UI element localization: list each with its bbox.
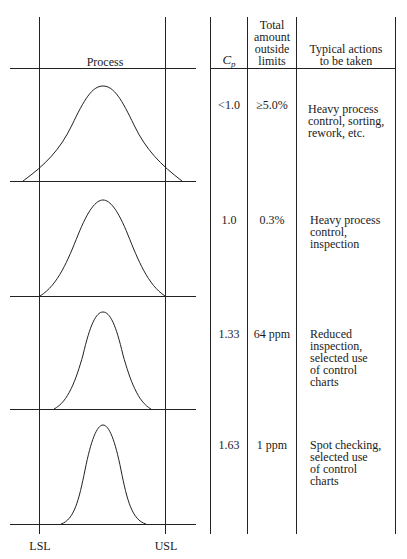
row-1-actions: Heavy process control, sorting, rework, … <box>308 103 384 139</box>
row-3-actions: Reduced inspection, selected use of cont… <box>310 328 368 388</box>
header-cp-sub: p <box>231 59 236 69</box>
distribution-curve-2 <box>40 200 165 296</box>
header-total-line: limits <box>248 55 296 67</box>
row-2-action-line: inspection <box>310 238 380 250</box>
usl-label: USL <box>150 540 182 552</box>
row-1-outside: ≥5.0% <box>248 99 296 111</box>
header-cp-main: C <box>222 52 231 67</box>
row-4-outside: 1 ppm <box>248 439 296 451</box>
header-actions: Typical actions to be taken <box>297 43 395 67</box>
row-1-cp: <1.0 <box>211 99 247 111</box>
row-2-outside: 0.3% <box>248 214 296 226</box>
row-3-action-line: charts <box>310 376 368 388</box>
header-cp: Cp <box>211 54 247 70</box>
row-4-action-line: charts <box>310 475 381 487</box>
header-actions-line: to be taken <box>297 55 395 67</box>
header-process: Process <box>55 56 155 68</box>
row-4-cp: 1.63 <box>211 439 247 451</box>
lsl-label: LSL <box>24 540 56 552</box>
distribution-curve-3 <box>54 312 151 409</box>
row-3-cp: 1.33 <box>211 328 247 340</box>
row-2-cp: 1.0 <box>211 214 247 226</box>
distribution-curve-4 <box>61 425 146 524</box>
header-total-outside: Total amount outside limits <box>248 19 296 67</box>
row-3-outside: 64 ppm <box>248 328 296 340</box>
row-1-action-line: rework, etc. <box>308 127 384 139</box>
row-2-actions: Heavy process control, inspection <box>310 214 380 250</box>
row-4-actions: Spot checking, selected use of control c… <box>310 439 381 487</box>
distribution-curve-1 <box>23 86 182 181</box>
